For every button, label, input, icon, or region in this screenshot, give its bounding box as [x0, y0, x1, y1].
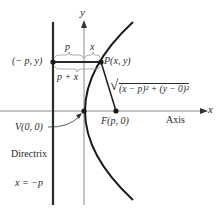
- directrix-equation: x = −p: [15, 178, 43, 188]
- axis-label: Axis: [166, 115, 185, 125]
- vertex-arrowhead-icon: [76, 113, 82, 119]
- focus-dot: [113, 108, 118, 113]
- y-axis-label: y: [80, 7, 85, 18]
- brace-x: [85, 52, 100, 58]
- x-axis-label: x: [208, 104, 213, 115]
- brace-p: [55, 52, 83, 58]
- y-axis-arrow-icon: [81, 20, 87, 28]
- point-p-label: P(x, y): [104, 56, 131, 66]
- directrix-point-label: (− p, y): [12, 56, 42, 66]
- distance-radical: √: [110, 78, 118, 93]
- focus-label: F(p, 0): [101, 116, 129, 126]
- x-axis-arrow-icon: [200, 108, 208, 114]
- directrix-point-dot: [50, 59, 55, 64]
- segment-x-label: x: [90, 42, 94, 52]
- segment-p-label: p: [65, 42, 70, 52]
- directrix-label: Directrix: [11, 149, 47, 159]
- point-p-dot: [98, 59, 103, 64]
- distance-formula: (x − p)² + (y − 0)²: [119, 83, 189, 95]
- vertex-label: V(0, 0): [15, 122, 43, 132]
- vertex-dot: [81, 108, 86, 113]
- segment-p-plus-x-label: p + x: [57, 72, 78, 82]
